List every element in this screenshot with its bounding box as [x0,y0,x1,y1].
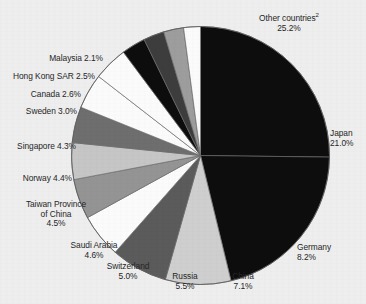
pie-label-saudi-arabia-name: Saudi Arabia [71,240,118,250]
pie-label-russia-name: Russia [172,271,197,281]
pie-label-taiwan-name-line1: Taiwan Province [26,199,86,209]
pie-label-germany-name: Germany [297,242,331,252]
pie-label-canada: Canada 2.6% [0,90,81,100]
pie-slice-other-countries [201,27,330,158]
pie-label-hong-kong-sar: Hong Kong SAR 2.5% [0,72,95,82]
pie-label-switzerland-name: Switzerland [107,261,150,271]
pie-label-taiwan: Taiwan Province of China 4.5% [14,200,98,229]
pie-label-norway: Norway 4.4% [0,174,72,184]
pie-label-singapore: Singapore 4.3% [0,142,76,152]
pie-label-germany-value: 8.2% [297,253,357,263]
pie-label-russia-value: 5.5% [160,282,210,292]
pie-label-sweden: Sweden 3.0% [0,107,77,117]
pie-label-switzerland-value: 5.0% [92,272,164,282]
pie-chart-figure: Other countries2 25.2% Japan 21.0% Germa… [0,0,366,304]
pie-label-other-countries: Other countries2 25.2% [236,14,342,33]
pie-label-switzerland: Switzerland 5.0% [92,262,164,281]
pie-label-china-value: 7.1% [218,282,268,292]
pie-label-saudi-arabia: Saudi Arabia 4.6% [58,241,130,260]
pie-label-other-countries-name: Other countries [259,13,316,23]
footnote-marker-2: 2 [316,12,319,18]
pie-label-malaysia: Malaysia 2.1% [0,54,103,64]
pie-label-china-name: China [232,271,254,281]
pie-label-china: China 7.1% [218,272,268,291]
pie-label-other-countries-value: 25.2% [236,24,342,34]
pie-label-japan: Japan 21.0% [330,129,366,148]
pie-label-saudi-arabia-value: 4.6% [58,251,130,261]
pie-label-russia: Russia 5.5% [160,272,210,291]
pie-label-japan-value: 21.0% [330,139,366,149]
pie-label-germany: Germany 8.2% [297,243,357,262]
pie-label-taiwan-value: 4.5% [14,219,98,229]
pie-label-japan-name: Japan [330,128,353,138]
